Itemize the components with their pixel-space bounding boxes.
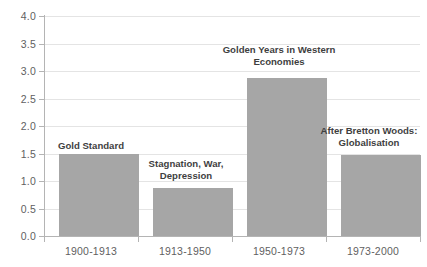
bar-1900-1913 (59, 154, 139, 237)
y-tick-label-2.5: 2.5 (21, 94, 36, 105)
y-tick-mark-0.5 (39, 209, 44, 210)
y-tick-mark-3.0 (39, 71, 44, 72)
bar-chart: 4.0 3.5 3.0 2.5 2.0 1.5 1.0 0.5 0.0 1900… (0, 0, 427, 267)
y-tick-mark-3.5 (39, 44, 44, 45)
y-tick-label-3.0: 3.0 (21, 66, 36, 77)
y-tick-mark-2.0 (39, 126, 44, 127)
annotation-after-bretton-woods: After Bretton Woods: Globalisation (312, 125, 426, 150)
x-tick-mark-2 (232, 236, 233, 242)
x-tick-label-1950-1973: 1950-1973 (232, 246, 326, 257)
y-tick-label-4.0: 4.0 (21, 11, 36, 22)
x-tick-mark-3 (326, 236, 327, 242)
x-tick-mark-1 (138, 236, 139, 242)
bar-1913-1950 (153, 188, 233, 236)
bar-1950-1973 (247, 78, 327, 236)
gridline-2.5 (44, 99, 420, 100)
x-tick-label-1973-2000: 1973-2000 (326, 246, 420, 257)
bar-1973-2000 (341, 155, 421, 236)
y-tick-mark-1.0 (39, 181, 44, 182)
y-tick-mark-2.5 (39, 99, 44, 100)
gridline-3.0 (44, 71, 420, 72)
y-tick-mark-1.5 (39, 154, 44, 155)
x-tick-mark-0 (44, 236, 45, 242)
y-tick-mark-4.0 (39, 16, 44, 17)
y-tick-label-1.5: 1.5 (21, 149, 36, 160)
x-tick-label-1900-1913: 1900-1913 (44, 246, 138, 257)
y-tick-label-0.0: 0.0 (21, 231, 36, 242)
annotation-gold-standard: Gold Standard (36, 140, 146, 152)
y-tick-label-1.0: 1.0 (21, 176, 36, 187)
x-tick-label-1913-1950: 1913-1950 (138, 246, 232, 257)
y-tick-label-2.0: 2.0 (21, 121, 36, 132)
x-tick-mark-4 (420, 236, 421, 242)
annotation-golden-years: Golden Years in Western Economies (196, 44, 362, 69)
y-tick-label-0.5: 0.5 (21, 204, 36, 215)
annotation-stagnation-war-depression: Stagnation, War, Depression (128, 158, 244, 183)
gridline-4.0 (44, 16, 420, 17)
y-tick-label-3.5: 3.5 (21, 39, 36, 50)
y-axis-line (44, 15, 45, 237)
